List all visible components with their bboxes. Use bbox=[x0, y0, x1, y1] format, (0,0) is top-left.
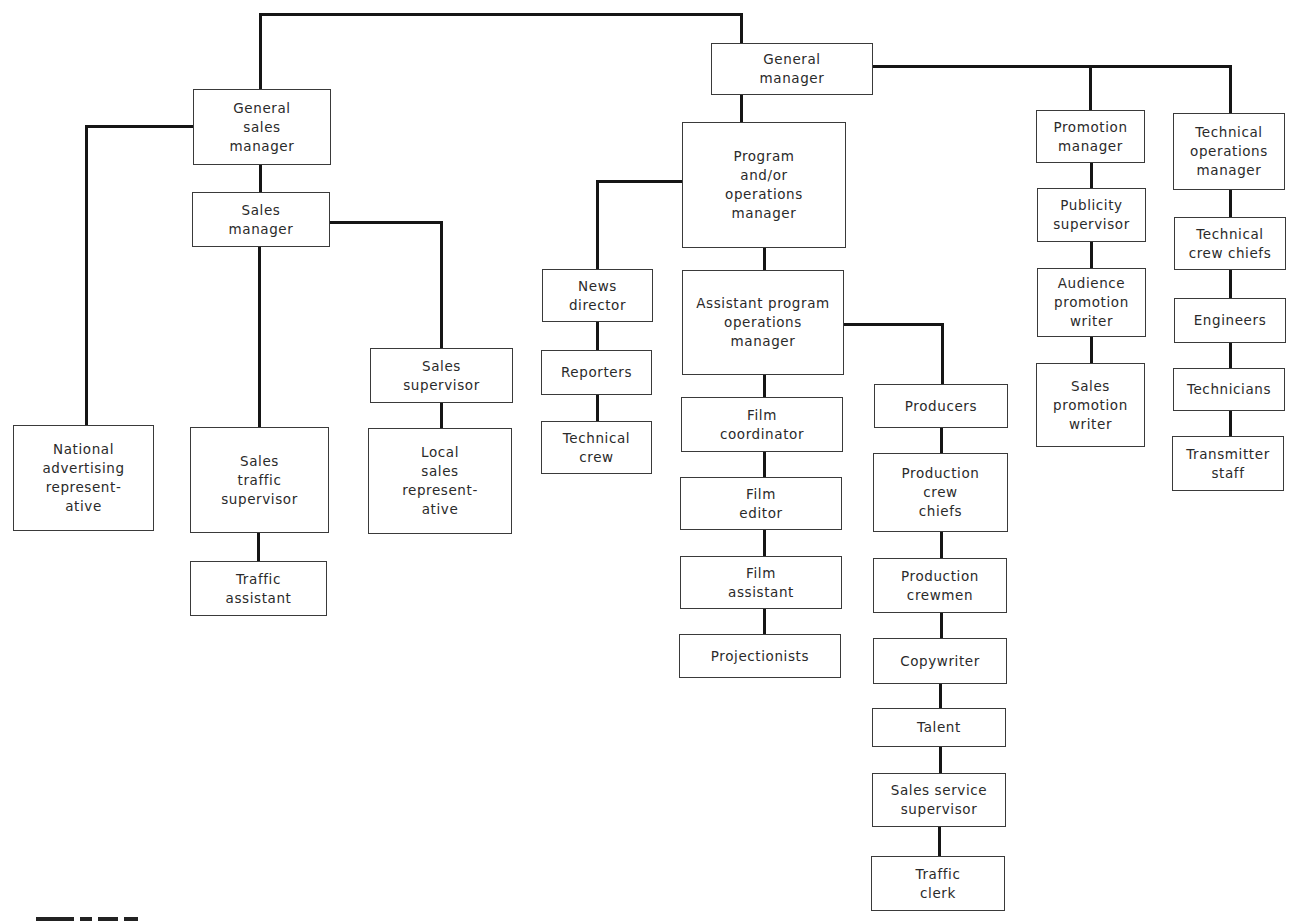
connector-line bbox=[329, 221, 443, 224]
org-node-production-crewmen: Production crewmen bbox=[873, 558, 1007, 613]
connector-line bbox=[440, 403, 443, 428]
connector-line bbox=[596, 322, 599, 350]
connector-line bbox=[1229, 411, 1232, 436]
connector-line bbox=[259, 13, 743, 16]
org-node-producers: Producers bbox=[874, 384, 1008, 428]
org-node-audience-promotion-writer: Audience promotion writer bbox=[1037, 268, 1146, 337]
org-node-general-sales-manager: General sales manager bbox=[193, 89, 331, 165]
org-node-film-coordinator: Film coordinator bbox=[681, 397, 843, 452]
org-node-engineers: Engineers bbox=[1174, 298, 1286, 343]
org-node-publicity-supervisor: Publicity supervisor bbox=[1037, 188, 1146, 242]
org-node-technical-crew-chiefs: Technical crew chiefs bbox=[1174, 217, 1286, 270]
connector-line bbox=[1229, 343, 1232, 368]
org-node-sales-supervisor: Sales supervisor bbox=[370, 348, 513, 403]
org-node-national-advertising-rep: National advertising represent- ative bbox=[13, 425, 154, 531]
org-node-sales-traffic-supervisor: Sales traffic supervisor bbox=[190, 427, 329, 533]
connector-line bbox=[257, 533, 260, 561]
org-node-traffic-assistant: Traffic assistant bbox=[190, 561, 327, 616]
connector-line bbox=[872, 65, 1232, 68]
org-node-talent: Talent bbox=[872, 708, 1006, 747]
connector-line bbox=[258, 247, 261, 427]
connector-line bbox=[939, 747, 942, 773]
connector-line bbox=[1089, 66, 1092, 110]
org-node-film-editor: Film editor bbox=[680, 477, 842, 530]
org-node-technicians: Technicians bbox=[1173, 368, 1285, 411]
connector-line bbox=[763, 530, 766, 556]
org-chart: General managerGeneral sales managerSale… bbox=[0, 0, 1290, 921]
connector-line bbox=[259, 14, 262, 89]
connector-line bbox=[940, 428, 943, 453]
connector-line bbox=[1229, 190, 1232, 217]
connector-line bbox=[440, 222, 443, 348]
connector-line bbox=[763, 248, 766, 270]
org-node-sales-manager: Sales manager bbox=[192, 192, 330, 247]
org-node-general-manager: General manager bbox=[711, 43, 873, 95]
org-node-transmitter-staff: Transmitter staff bbox=[1172, 436, 1284, 491]
connector-line bbox=[596, 181, 599, 269]
org-node-projectionists: Projectionists bbox=[679, 634, 841, 678]
org-node-program-operations-manager: Program and/or operations manager bbox=[682, 122, 846, 248]
connector-line bbox=[85, 126, 88, 425]
connector-line bbox=[596, 395, 599, 421]
connector-line bbox=[1229, 66, 1232, 113]
connector-line bbox=[941, 324, 944, 384]
org-node-film-assistant: Film assistant bbox=[680, 556, 842, 609]
connector-line bbox=[1090, 242, 1093, 268]
connector-line bbox=[740, 95, 743, 122]
org-node-technical-crew: Technical crew bbox=[541, 421, 652, 474]
connector-line bbox=[939, 684, 942, 708]
connector-line bbox=[938, 827, 941, 856]
connector-line bbox=[763, 452, 766, 477]
org-node-news-director: News director bbox=[542, 269, 653, 322]
cropped-caption-fragment bbox=[36, 914, 216, 921]
org-node-promotion-manager: Promotion manager bbox=[1036, 110, 1145, 163]
org-node-local-sales-rep: Local sales represent- ative bbox=[368, 428, 512, 534]
org-node-traffic-clerk: Traffic clerk bbox=[871, 856, 1005, 911]
connector-line bbox=[740, 14, 743, 43]
connector-line bbox=[763, 609, 766, 634]
org-node-reporters: Reporters bbox=[541, 350, 652, 395]
connector-line bbox=[763, 375, 766, 397]
org-node-production-crew-chiefs: Production crew chiefs bbox=[873, 453, 1008, 532]
org-node-copywriter: Copywriter bbox=[873, 638, 1007, 684]
connector-line bbox=[1090, 163, 1093, 188]
connector-line bbox=[596, 180, 684, 183]
connector-line bbox=[259, 165, 262, 192]
connector-line bbox=[1090, 337, 1093, 363]
connector-line bbox=[85, 125, 195, 128]
org-node-sales-service-supervisor: Sales service supervisor bbox=[872, 773, 1006, 827]
connector-line bbox=[940, 532, 943, 558]
connector-line bbox=[1229, 270, 1232, 298]
connector-line bbox=[843, 323, 944, 326]
connector-line bbox=[940, 613, 943, 638]
org-node-sales-promotion-writer: Sales promotion writer bbox=[1036, 363, 1145, 447]
org-node-technical-operations-manager: Technical operations manager bbox=[1173, 113, 1285, 190]
org-node-assistant-program-operations-manager: Assistant program operations manager bbox=[682, 270, 844, 375]
